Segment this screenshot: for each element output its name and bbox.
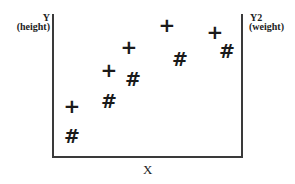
weight-marker: #: [101, 92, 117, 111]
height-marker: +: [121, 37, 138, 57]
weight-marker: #: [219, 42, 235, 61]
weight-marker: #: [172, 50, 188, 69]
x-axis-title: X: [143, 162, 152, 178]
weight-marker: #: [125, 70, 141, 89]
height-marker: +: [101, 60, 118, 80]
y2-axis-subtitle: (weight): [249, 22, 284, 32]
y-axis-subtitle: (height): [4, 22, 50, 32]
x-axis: [52, 156, 243, 158]
left-axis: [52, 14, 54, 158]
right-axis: [241, 14, 243, 158]
weight-marker: #: [64, 127, 80, 146]
height-marker: +: [159, 15, 176, 35]
height-marker: +: [64, 96, 81, 116]
